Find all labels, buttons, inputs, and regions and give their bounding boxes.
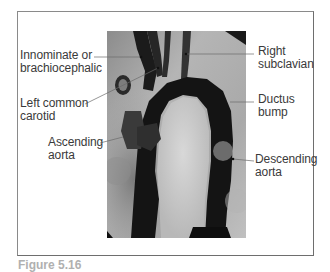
label-left-common-carotid: Left common carotid [20, 97, 88, 123]
aortogram-image [107, 31, 246, 238]
label-ascending-aorta: Ascending aorta [48, 136, 103, 162]
label-right-subclavian: Right subclavian [258, 45, 314, 71]
label-innominate: Innominate or brachiocephalic [20, 49, 102, 75]
label-ductus-bump: Ductus bump [258, 93, 295, 119]
figure-caption: Figure 5.16 [18, 259, 81, 271]
label-descending-aorta: Descending aorta [255, 153, 317, 179]
